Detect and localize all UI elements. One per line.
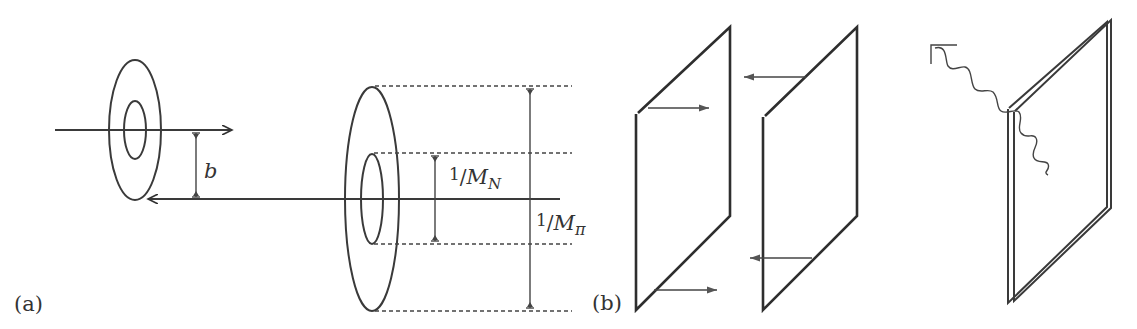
impact-parameter-dimension: b [192,133,217,197]
corner-mark [931,45,957,64]
panel-a-label: (a) [14,292,43,316]
pion-cloud-radius-label: 1/Mπ [536,210,586,239]
panel-b: (b) [592,20,1111,315]
wavy-radiation-line [935,47,1049,175]
impact-parameter-label: b [204,159,217,183]
panel-a: b 1/MN [14,60,586,316]
figure-canvas: b 1/MN [0,0,1137,329]
left-nucleus-sheet [636,27,730,310]
panel-b-label: (b) [592,291,622,315]
right-nucleus-sheet [763,27,857,310]
core-radius-label: 1/MN [449,164,502,193]
merged-double-sheet [1008,20,1111,303]
